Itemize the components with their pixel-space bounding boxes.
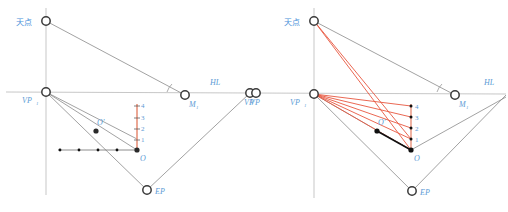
point-o[interactable] xyxy=(134,147,139,152)
scale-number-3: 3 xyxy=(415,114,419,122)
scale-number-4: 4 xyxy=(141,102,145,110)
label-vp1-sub: 1 xyxy=(304,103,307,108)
vp1-to-ep-line xyxy=(46,92,147,190)
scale-point-4 xyxy=(410,105,413,108)
label-vp1: VP 1 xyxy=(290,98,307,108)
diagram-svg: 4 3 2 1 天点 VP 1 M 1 VP xyxy=(0,0,508,212)
scale-number-4: 4 xyxy=(415,103,419,111)
label-o-prime: O' xyxy=(97,118,105,127)
node-ep[interactable] xyxy=(143,186,151,194)
horizon-line xyxy=(252,93,506,94)
node-m1[interactable] xyxy=(181,91,189,99)
ep-to-vp2-line xyxy=(147,93,250,190)
figure-canvas: 4 3 2 1 天点 VP 1 M 1 VP xyxy=(0,0,508,212)
right-panel: 4 3 2 1 天点 VP 1 M 1 VP xyxy=(250,8,506,198)
node-vp1[interactable] xyxy=(310,90,318,98)
label-vp2-text: VP xyxy=(250,98,260,107)
label-vp2: VP xyxy=(250,98,260,107)
point-o[interactable] xyxy=(408,147,413,152)
label-vp1-text: VP xyxy=(22,96,32,105)
label-ep: EP xyxy=(154,187,165,196)
node-vp2[interactable] xyxy=(252,89,260,97)
node-zenith[interactable] xyxy=(310,17,318,25)
node-m1[interactable] xyxy=(451,91,459,99)
scale-point-3 xyxy=(410,116,413,119)
scale-number-3: 3 xyxy=(141,114,145,122)
point-o-prime[interactable] xyxy=(93,128,98,133)
label-zenith: 天点 xyxy=(16,18,32,27)
label-o: O xyxy=(414,154,420,163)
zenith-to-m1-line xyxy=(314,21,455,95)
node-ep[interactable] xyxy=(408,187,416,195)
label-vp1: VP 1 xyxy=(22,96,39,106)
node-vp1[interactable] xyxy=(42,88,50,96)
red-ray-vp1-to-1 xyxy=(314,94,411,139)
red-ray-zenith-b xyxy=(314,21,411,139)
scale-point-1 xyxy=(410,138,413,141)
scale-number-1: 1 xyxy=(141,136,145,144)
point-o-prime[interactable] xyxy=(374,128,379,133)
label-m1: M 1 xyxy=(188,100,199,110)
red-ray-vp1-to-3 xyxy=(314,94,411,117)
ground-dot xyxy=(116,149,119,152)
ground-dot xyxy=(97,149,100,152)
vp1-to-oprime-line xyxy=(46,92,137,139)
scale-point-2 xyxy=(410,127,413,130)
scale-number-2: 2 xyxy=(141,125,145,133)
label-m1: M 1 xyxy=(458,100,469,110)
scale-number-2: 2 xyxy=(415,125,419,133)
label-hl: HL xyxy=(483,78,495,87)
label-m1-sub: 1 xyxy=(196,105,199,110)
label-zenith: 天点 xyxy=(284,18,300,27)
red-ray-vp1-to-2 xyxy=(314,94,411,128)
label-o-prime: O' xyxy=(378,118,386,127)
left-panel: 4 3 2 1 天点 VP 1 M 1 VP xyxy=(6,8,254,196)
zenith-to-m1-line xyxy=(46,21,185,95)
red-ray-zenith-a xyxy=(314,21,411,150)
scale-number-1: 1 xyxy=(415,136,419,144)
label-m1-sub: 1 xyxy=(466,105,469,110)
label-ep: EP xyxy=(419,188,430,197)
ground-dot xyxy=(78,149,81,152)
label-vp1-sub: 1 xyxy=(36,101,39,106)
red-ray-vp1-to-4 xyxy=(314,94,411,106)
label-vp1-text: VP xyxy=(290,98,300,107)
node-zenith[interactable] xyxy=(42,17,50,25)
label-o: O xyxy=(140,154,146,163)
label-hl: HL xyxy=(209,78,221,87)
ep-to-vp2-line xyxy=(412,95,506,191)
vp1-to-o-line xyxy=(46,92,137,150)
ground-dot xyxy=(59,149,62,152)
oprime-to-o-segment xyxy=(377,131,411,150)
